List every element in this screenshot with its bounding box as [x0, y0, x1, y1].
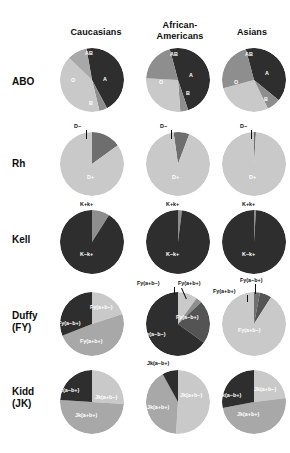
column-header-asians: Asians [214, 27, 290, 38]
slice-label-kidd-asians-ambp: Jk(a−b+) [219, 392, 241, 398]
slice-label-abo-african-americans-A: A [189, 72, 193, 78]
pie-kell-african-americans [146, 210, 210, 274]
pie-kidd-asians [222, 370, 286, 434]
slice-label-rh-asians-Dpos: D+ [249, 174, 256, 180]
slice-label-kell-caucasians-Kpos: K+k+ [80, 201, 93, 207]
pie-kell-caucasians [60, 210, 124, 274]
slice-label-abo-asians-A: A [265, 70, 269, 76]
slice-label-rh-caucasians-Dneg: D− [74, 123, 81, 129]
row-label-rh-text: Rh [12, 158, 25, 169]
slice-label-abo-caucasians-O: O [71, 77, 75, 83]
slice-label-kidd-caucasians-apbp: Jk(a+b+) [75, 412, 97, 418]
slice-label-kidd-asians-apbp: Jk(a+b+) [237, 411, 259, 417]
slice-label-duffy-asians-apbm: Fy(a+b−) [238, 327, 260, 333]
pie-slice-duffy-asians-2 [222, 292, 286, 356]
slice-label-kell-caucasians-Kneg: K−k+ [80, 251, 93, 257]
slice-label-abo-caucasians-B: B [89, 100, 93, 106]
slice-label-kell-african-americans-Kpos: K+k+ [166, 201, 179, 207]
slice-label-duffy-asians-apbp: Fy(a+b+) [213, 288, 235, 294]
slice-label-duffy-african-americans-ambp: Fy(a−b+) [176, 314, 198, 320]
pie-rh-caucasians [60, 132, 124, 196]
row-label-duffy-text: Duffy [12, 310, 38, 321]
pie-slice-kell-asians-1 [222, 210, 286, 274]
leader-duffy-asians-ambp [255, 284, 256, 294]
slice-label-abo-asians-B: B [264, 96, 268, 102]
column-header-caucasians: Caucasians [56, 27, 136, 38]
blood-group-antigen-frequency-figure: Caucasians African- Americans Asians ABO… [0, 0, 290, 453]
slice-label-abo-caucasians-AB: AB [85, 50, 93, 56]
row-label-kidd-sub: (JK) [12, 398, 34, 410]
pie-slice-kell-african-americans-1 [146, 210, 210, 274]
pie-kidd-african-americans [146, 370, 210, 434]
column-header-african-americans-line1: African- [163, 20, 198, 30]
row-label-duffy: Duffy (FY) [12, 310, 38, 334]
slice-label-duffy-caucasians-ambp: Fy(a−b+) [58, 320, 80, 326]
slice-label-abo-asians-O: O [234, 79, 238, 85]
slice-label-kidd-african-americans-apbm: Jk(a+b−) [180, 392, 202, 398]
slice-label-rh-caucasians-Dpos: D+ [87, 174, 94, 180]
slice-label-duffy-african-americans-ambm: Fy(a−b−) [143, 331, 165, 337]
slice-label-kell-asians-Kneg: K−k+ [242, 251, 255, 257]
slice-label-kell-african-americans-Kneg: K−k+ [166, 251, 179, 257]
row-label-kell-text: Kell [12, 234, 30, 245]
pie-slice-rh-asians-1 [222, 132, 286, 196]
slice-label-kidd-african-americans-apbp: Jk(a+b+) [147, 404, 169, 410]
slice-label-duffy-caucasians-apbp: Fy(a+b+) [80, 338, 102, 344]
pie-slice-kidd-african-americans-0 [176, 370, 210, 434]
leader-rh-caucasians [86, 130, 87, 139]
pie-rh-asians [222, 132, 286, 196]
column-header-african-americans: African- Americans [140, 20, 220, 41]
row-label-kell: Kell [12, 234, 30, 246]
pie-slice-kidd-caucasians-2 [60, 370, 92, 402]
pie-duffy-african-americans [146, 292, 210, 356]
pie-slice-kidd-asians-2 [222, 370, 254, 408]
leader-duffy-aa-apbm [174, 287, 175, 295]
slice-label-duffy-caucasians-apbm: Fy(a+b−) [90, 304, 112, 310]
row-label-abo: ABO [12, 76, 34, 88]
leader-rh-african-americans [171, 130, 172, 139]
row-label-kidd: Kidd (JK) [12, 386, 34, 410]
slice-label-abo-african-americans-AB: AB [170, 51, 178, 57]
slice-label-kidd-african-americans-ambp: Jk(a−b+) [147, 360, 169, 366]
slice-label-kidd-caucasians-ambp: Jk(a−b+) [57, 387, 79, 393]
pie-duffy-asians [222, 292, 286, 356]
pie-slice-kell-caucasians-1 [60, 210, 124, 274]
slice-label-rh-asians-Dneg: D− [240, 123, 247, 129]
slice-label-kell-asians-Kpos: K+k+ [242, 201, 255, 207]
row-label-duffy-sub: (FY) [12, 322, 38, 334]
pie-abo-african-americans [146, 48, 210, 112]
slice-label-duffy-african-americans-apbp: Fy(a+b+) [178, 280, 200, 286]
slice-label-kidd-asians-apbm: Jk(a+b−) [254, 386, 276, 392]
pie-kidd-caucasians [60, 370, 124, 434]
slice-label-abo-asians-AB: AB [245, 51, 253, 57]
row-label-rh: Rh [12, 158, 25, 170]
row-label-abo-text: ABO [12, 76, 34, 87]
row-label-kidd-text: Kidd [12, 386, 34, 397]
slice-label-abo-african-americans-B: B [186, 90, 190, 96]
slice-label-kidd-caucasians-apbm: Jk(a+b−) [95, 394, 117, 400]
leader-rh-asians [251, 130, 252, 139]
column-header-african-americans-line2: Americans [157, 31, 204, 41]
slice-label-duffy-asians-ambp: Fy(a−b+) [240, 277, 262, 283]
slice-label-rh-african-americans-Dpos: D+ [172, 174, 179, 180]
pie-rh-african-americans [146, 132, 210, 196]
leader-duffy-asians-apbp [247, 295, 248, 302]
slice-label-duffy-african-americans-apbm: Fy(a+b−) [137, 280, 159, 286]
slice-label-rh-african-americans-Dneg: D− [160, 123, 167, 129]
pie-kell-asians [222, 210, 286, 274]
slice-label-abo-african-americans-O: O [159, 79, 163, 85]
pie-abo-asians [222, 48, 286, 112]
slice-label-abo-caucasians-A: A [103, 76, 107, 82]
